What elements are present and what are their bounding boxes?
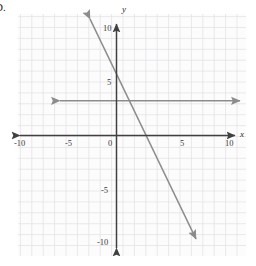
coordinate-plane	[0, 0, 256, 266]
x-tick-label-neg10: -10	[14, 139, 25, 148]
x-tick-label-neg5: -5	[65, 139, 72, 148]
y-tick-label-neg10: -10	[97, 238, 108, 247]
x-axis-label: x	[240, 130, 244, 139]
graph-screenshot: D.	[0, 0, 256, 266]
y-axis-label: y	[122, 5, 126, 14]
x-tick-label-5: 5	[180, 139, 184, 148]
origin-label: 0	[108, 139, 112, 148]
y-tick-label-5: 5	[107, 78, 111, 87]
y-tick-label-neg5: -5	[101, 186, 108, 195]
x-tick-label-10: 10	[225, 139, 234, 148]
y-tick-label-10: 10	[103, 24, 112, 33]
